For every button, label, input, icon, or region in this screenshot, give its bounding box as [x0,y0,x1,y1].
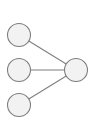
graph-node [65,59,88,82]
graph-node [8,59,31,82]
graph-node [8,94,31,117]
graph-diagram [0,0,95,136]
graph-node [8,24,31,47]
